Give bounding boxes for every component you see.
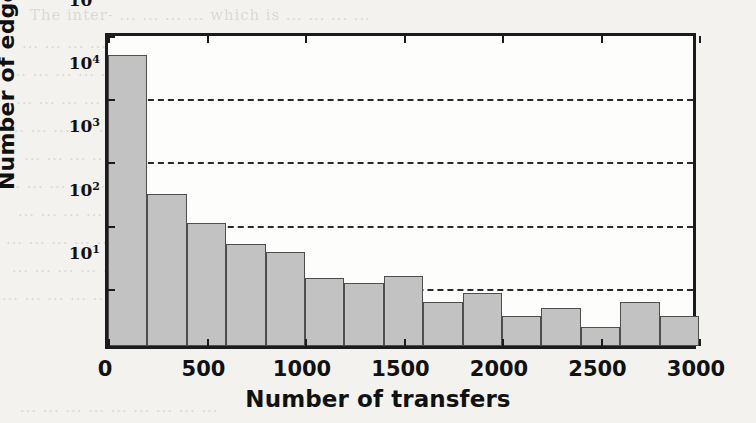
plot-area: [105, 33, 696, 349]
y-tick-label: 101: [69, 242, 100, 263]
x-tick-mark: [502, 339, 504, 346]
x-tick-mark: [207, 339, 209, 346]
x-tick-mark-top: [305, 36, 307, 43]
histogram-bar: [384, 276, 423, 346]
y-tick-label: 105: [69, 0, 100, 10]
histogram-bar: [423, 302, 462, 346]
histogram-bar: [147, 194, 186, 346]
x-tick-mark-top: [207, 36, 209, 43]
x-tick-mark-top: [502, 36, 504, 43]
histogram-bar: [226, 244, 265, 346]
y-tick-label: 104: [69, 53, 100, 74]
x-tick-mark: [108, 339, 110, 346]
x-tick-mark-top: [601, 36, 603, 43]
histogram-bar: [187, 223, 226, 346]
x-tick-mark: [305, 339, 307, 346]
histogram-bar: [502, 316, 541, 346]
x-tick-label: 2500: [568, 357, 626, 381]
x-tick-label: 1000: [273, 357, 331, 381]
histogram-bar: [266, 252, 305, 346]
gridline: [108, 99, 693, 101]
y-tick-mark: [108, 289, 115, 291]
x-tick-label: 0: [98, 357, 113, 381]
histogram-bar: [344, 283, 383, 346]
x-tick-label: 500: [182, 357, 226, 381]
x-axis-label: Number of transfers: [0, 386, 756, 412]
x-tick-mark-top: [699, 36, 701, 43]
y-tick-label: 102: [69, 179, 100, 200]
x-tick-mark-top: [404, 36, 406, 43]
y-tick-mark: [108, 226, 115, 228]
histogram-bar: [305, 278, 344, 346]
x-tick-label: 2000: [470, 357, 528, 381]
x-tick-label: 3000: [667, 357, 725, 381]
x-tick-label: 1500: [371, 357, 429, 381]
y-tick-mark: [108, 99, 115, 101]
histogram-bar: [660, 316, 699, 346]
x-tick-mark: [404, 339, 406, 346]
gridline: [108, 162, 693, 164]
y-tick-label: 103: [69, 116, 100, 137]
x-tick-mark: [601, 339, 603, 346]
histogram-bar: [463, 293, 502, 346]
y-tick-mark: [108, 36, 115, 38]
histogram-figure: Number of edges (log10) 101102103104105 …: [0, 0, 756, 423]
y-tick-mark: [108, 162, 115, 164]
histogram-bar: [620, 302, 659, 346]
x-tick-mark: [699, 339, 701, 346]
y-tick-label-group: 101102103104105: [0, 0, 100, 316]
histogram-bar: [541, 308, 580, 346]
